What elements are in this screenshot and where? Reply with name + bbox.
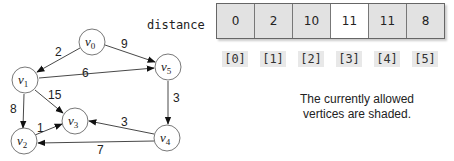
edge-v4-v2 — [38, 141, 154, 143]
distance-cell-1: 2 — [255, 4, 293, 38]
node-v2: v2 — [11, 128, 37, 154]
weight-v0-v1: 2 — [55, 45, 62, 59]
index-label-3: [3] — [336, 51, 362, 67]
edge-v1-v5 — [39, 68, 154, 78]
edge-v1-v2 — [23, 94, 24, 128]
distance-cell-3: 11 — [331, 4, 369, 38]
index-label-5: [5] — [412, 51, 438, 67]
node-v4: v4 — [154, 125, 180, 151]
index-label-0: [0] — [222, 51, 248, 67]
array-indices: [0] [1] [2] [3] [4] [5] — [216, 51, 444, 67]
weight-v2-v3: 1 — [37, 121, 44, 135]
index-label-1: [1] — [260, 51, 286, 67]
weight-v1-v5: 6 — [82, 66, 89, 80]
caption-line-2: vertices are shaded. — [287, 107, 427, 122]
weight-v1-v2: 8 — [10, 102, 17, 116]
node-v3: v3 — [62, 108, 88, 134]
distance-array: 0 2 10 11 11 8 — [216, 3, 445, 39]
distance-cell-2: 10 — [293, 4, 331, 38]
distance-cell-0: 0 — [217, 4, 255, 38]
caption-note: The currently allowed vertices are shade… — [287, 92, 427, 122]
weight-v4-v2: 7 — [97, 143, 104, 157]
weight-v5-v4: 3 — [173, 91, 180, 105]
distance-array-label: distance — [147, 18, 205, 32]
node-v5: v5 — [155, 54, 181, 80]
node-v1: v1 — [12, 67, 38, 93]
index-label-2: [2] — [298, 51, 324, 67]
index-label-4: [4] — [374, 51, 400, 67]
edge-v0-v5 — [105, 45, 155, 62]
weight-v1-v3: 15 — [48, 88, 62, 102]
weight-v0-v5: 9 — [121, 37, 128, 51]
node-v0: v0 — [79, 29, 105, 55]
distance-cell-4: 11 — [369, 4, 407, 38]
caption-line-1: The currently allowed — [287, 92, 427, 107]
distance-cell-5: 8 — [407, 4, 444, 38]
weight-v4-v3: 3 — [121, 115, 128, 129]
